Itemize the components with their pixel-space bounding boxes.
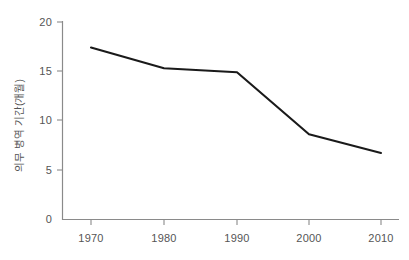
- y-tick-label-10: 10: [26, 114, 52, 126]
- x-tick-label-1970: 1970: [69, 232, 113, 244]
- x-tick-label-1980: 1980: [142, 232, 186, 244]
- y-tick-label-15: 15: [26, 65, 52, 77]
- y-tick-label-0: 0: [26, 213, 52, 225]
- y-tick-label-5: 5: [26, 164, 52, 176]
- y-tick-label-20: 20: [26, 16, 52, 28]
- y-axis-label: 의무 병역 기간(개월): [11, 66, 26, 186]
- x-tick-label-1990: 1990: [215, 232, 259, 244]
- x-tick-label-2010: 2010: [359, 232, 403, 244]
- chart-figure: 20 15 10 5 0 1970 1980 1990 2000 2010 의무…: [0, 0, 409, 260]
- data-series-line: [91, 48, 381, 153]
- x-tick-marks: [91, 220, 381, 226]
- x-tick-label-2000: 2000: [287, 232, 331, 244]
- line-chart-plot: [0, 0, 409, 260]
- y-tick-marks: [57, 22, 63, 170]
